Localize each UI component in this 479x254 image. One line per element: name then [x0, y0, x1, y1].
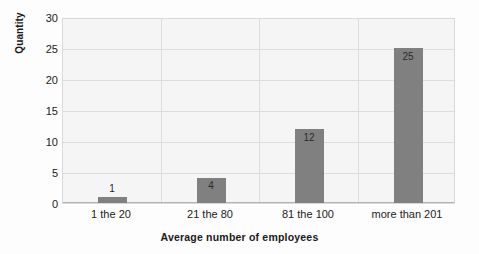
y-tick-label: 20 [30, 74, 58, 86]
bar-category-1 [98, 197, 127, 203]
y-tick-label: 25 [30, 43, 58, 55]
y-tick-label: 5 [30, 167, 58, 179]
bar-value-label: 25 [402, 51, 413, 62]
x-axis-title: Average number of employees [0, 231, 479, 243]
bar-value-label: 12 [303, 132, 314, 143]
y-tick-label: 15 [30, 105, 58, 117]
y-tick-label: 30 [30, 12, 58, 24]
y-tick-label: 10 [30, 136, 58, 148]
y-axis-tick-labels: 0 5 10 15 20 25 30 [30, 18, 58, 204]
bar-value-label: 1 [109, 183, 115, 194]
plot-area: 1 4 12 25 [62, 18, 455, 204]
x-axis-tick-labels: 1 the 20 21 the 80 81 the 100 more than … [62, 208, 455, 224]
x-tick-label: 21 the 80 [187, 208, 233, 220]
bar-chart: Quantity 0 5 10 15 20 25 30 1 4 12 25 [0, 0, 479, 254]
y-axis-title: Quantity [14, 0, 25, 78]
bar-value-label: 4 [208, 180, 214, 191]
bar-series: 1 4 12 25 [63, 19, 454, 203]
x-tick-label: 81 the 100 [282, 208, 334, 220]
bar-category-4 [394, 48, 423, 203]
x-tick-label: more than 201 [372, 208, 443, 220]
x-tick-label: 1 the 20 [91, 208, 131, 220]
y-tick-label: 0 [30, 198, 58, 210]
